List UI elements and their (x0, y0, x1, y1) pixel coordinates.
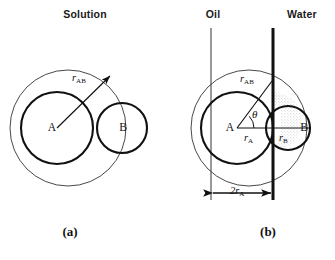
panel-a-header: Solution (40, 8, 130, 20)
panel-a-r-ab-label: rAB (72, 72, 86, 85)
panel-b-r-ab-subscript: AB (244, 78, 254, 86)
panel-b-r-a-subscript: A (248, 137, 253, 145)
panel-a-sphere-a-label: A (44, 121, 60, 133)
panel-a-sphere-b-label: B (115, 121, 131, 133)
panel-a-outer-solvation-circle (10, 70, 126, 186)
panel-b-r-b-label: rB (279, 132, 288, 145)
panel-b-graphics (191, 28, 310, 200)
panel-b-caption: (b) (248, 224, 288, 240)
panel-b-r-a-label: rA (244, 132, 253, 145)
panel-a-caption: (a) (50, 224, 90, 240)
panel-b-sphere-b-label: B (296, 121, 312, 133)
panel-b-theta-label: θ (252, 108, 257, 120)
panel-b-r-ab-label: rAB (240, 73, 254, 86)
panel-b-dimension-subscript: A (239, 190, 244, 198)
panel-b-r-b-subscript: B (283, 137, 288, 145)
panel-b-dimension-label: 2rA (230, 185, 244, 198)
figure-root: Solution A B rAB (a) Oil Water A B θ rAB… (0, 0, 335, 260)
panel-b-sphere-a-label: A (222, 121, 238, 133)
panel-a-r-ab-subscript: AB (76, 77, 86, 85)
panel-b-header-water: Water (277, 8, 327, 20)
panel-b-header-oil: Oil (191, 8, 235, 20)
